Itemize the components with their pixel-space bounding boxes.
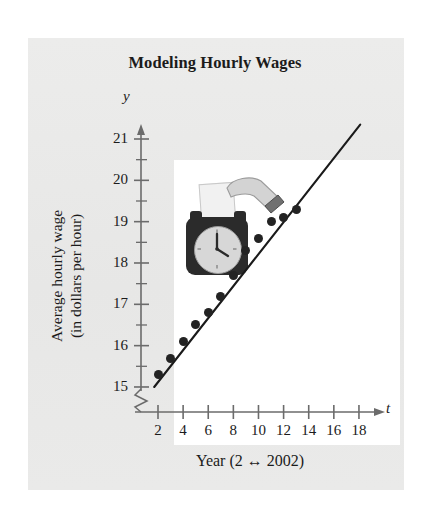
- data-point: [179, 337, 188, 346]
- x-tick-label: 2: [145, 422, 171, 439]
- y-tick-label: 21: [102, 130, 128, 147]
- data-point: [204, 308, 213, 317]
- x-tick-label: 6: [195, 422, 221, 439]
- data-point: [267, 217, 276, 226]
- y-tick-label: 20: [102, 171, 128, 188]
- figure: Modeling Hourly Wages y t Average hourly…: [0, 0, 430, 514]
- x-tick-label: 4: [170, 422, 196, 439]
- x-tick-label: 14: [296, 422, 322, 439]
- y-tick-label: 18: [102, 254, 128, 271]
- axis-lines: [135, 124, 385, 416]
- x-tick-label: 12: [271, 422, 297, 439]
- y-tick-label: 17: [102, 295, 128, 312]
- y-tick-label: 16: [102, 337, 128, 354]
- data-point: [292, 205, 301, 214]
- y-tick-label: 19: [102, 213, 128, 230]
- tick-marks: [134, 139, 359, 419]
- data-point: [229, 271, 238, 280]
- data-point: [166, 354, 175, 363]
- data-point: [216, 292, 225, 301]
- regression-line: [154, 125, 360, 387]
- x-tick-label: 16: [321, 422, 347, 439]
- y-tick-label: 15: [102, 378, 128, 395]
- x-tick-label: 10: [245, 422, 271, 439]
- x-tick-label: 8: [220, 422, 246, 439]
- data-point: [154, 370, 163, 379]
- x-tick-label: 18: [346, 422, 372, 439]
- data-point: [254, 234, 263, 243]
